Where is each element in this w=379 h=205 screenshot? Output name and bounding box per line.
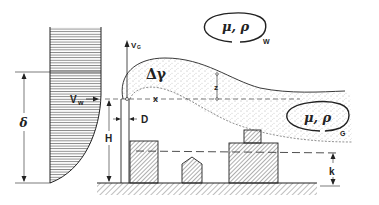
d-label: D bbox=[141, 114, 148, 125]
wind-properties-subscript: W bbox=[263, 38, 270, 45]
building-rooftop bbox=[244, 130, 261, 143]
x-label: x bbox=[153, 94, 158, 104]
roughness-label: k bbox=[329, 166, 335, 177]
building-small-pointed bbox=[182, 157, 202, 183]
stack-height-dimension: H bbox=[105, 100, 112, 182]
gas-properties-label: μ, ρ bbox=[304, 110, 332, 125]
building-right bbox=[229, 143, 278, 183]
stack-exit-velocity-subscript: G bbox=[137, 44, 141, 50]
gas-properties-subscript: G bbox=[340, 130, 346, 137]
roughness-dimension: k bbox=[320, 153, 340, 186]
wind-properties-ellipse: μ, ρ W bbox=[204, 13, 270, 45]
delta-label: δ bbox=[19, 116, 28, 130]
z-label: z bbox=[214, 83, 218, 92]
velocity-profile bbox=[50, 27, 101, 183]
plume-diagram: δ V w k Δγ V bbox=[0, 0, 379, 205]
boundary-layer-dimension: δ bbox=[15, 72, 50, 183]
wind-velocity-subscript: w bbox=[77, 99, 84, 106]
wind-velocity-label: V bbox=[70, 94, 77, 105]
ground bbox=[97, 183, 317, 195]
stack bbox=[121, 98, 129, 184]
stack-diameter-dimension: D bbox=[113, 114, 148, 125]
building-left bbox=[130, 141, 158, 183]
density-difference-label: Δγ bbox=[146, 66, 167, 82]
h-label: H bbox=[105, 133, 112, 144]
wind-properties-label: μ, ρ bbox=[222, 19, 250, 34]
